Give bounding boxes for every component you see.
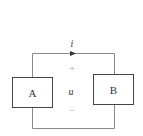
plus-sign: +	[69, 63, 75, 74]
component-b: B	[94, 75, 134, 105]
component-b-label: B	[110, 84, 117, 96]
circuit-diagram: i A B + u −	[0, 0, 143, 136]
current-arrow-icon	[70, 51, 76, 56]
voltage-label: u	[69, 86, 74, 97]
current-label: i	[71, 38, 74, 49]
component-a: A	[13, 78, 53, 108]
component-a-label: A	[29, 87, 37, 99]
minus-sign: −	[69, 105, 75, 116]
